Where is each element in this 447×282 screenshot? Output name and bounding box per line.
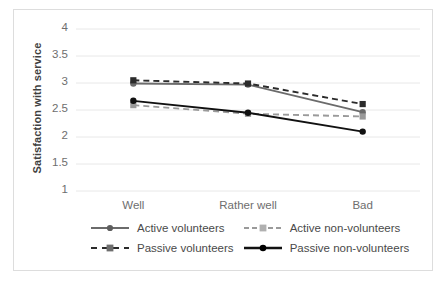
legend-row: Active volunteers Active non-volunteers [74, 218, 424, 238]
series-passive-volunteers [130, 77, 366, 107]
legend-item-passive-non-volunteers[interactable]: Passive non-volunteers [243, 238, 424, 258]
data-point[interactable] [130, 77, 136, 83]
data-point[interactable] [245, 80, 251, 86]
legend-label: Passive non-volunteers [290, 242, 410, 254]
legend-row: Passive volunteers Passive non-volunteer… [74, 238, 424, 258]
legend-key-passive-non-volunteers [243, 242, 283, 254]
legend-item-passive-volunteers[interactable]: Passive volunteers [74, 238, 243, 258]
data-point[interactable] [360, 113, 366, 119]
legend-label: Active volunteers [137, 222, 225, 234]
legend-label: Passive volunteers [137, 242, 234, 254]
data-point[interactable] [130, 98, 136, 104]
legend-item-active-non-volunteers[interactable]: Active non-volunteers [243, 218, 424, 238]
series-layer [130, 77, 366, 135]
legend-label: Active non-volunteers [290, 222, 401, 234]
chart-container: Satisfaction with service 43.532.521.51 … [13, 9, 433, 271]
legend-key-active-non-volunteers [243, 222, 283, 234]
legend-item-active-volunteers[interactable]: Active volunteers [74, 218, 243, 238]
data-point[interactable] [360, 101, 366, 107]
data-point[interactable] [245, 110, 251, 116]
data-point[interactable] [359, 128, 365, 134]
chart-legend: Active volunteers Active non-volunteers … [74, 218, 424, 258]
legend-key-passive-volunteers [90, 242, 130, 254]
legend-key-active-volunteers [90, 222, 130, 234]
